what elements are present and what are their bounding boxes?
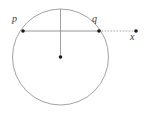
point-q-label: q <box>92 14 97 24</box>
point-p-marker <box>21 29 25 33</box>
point-q-marker <box>97 29 101 33</box>
geometry-figure: p q x <box>0 0 154 115</box>
circle-center-marker <box>59 55 63 59</box>
point-x-label: x <box>130 32 134 42</box>
point-x-marker <box>134 29 138 33</box>
figure-canvas <box>0 0 154 115</box>
point-p-label: p <box>12 14 17 24</box>
